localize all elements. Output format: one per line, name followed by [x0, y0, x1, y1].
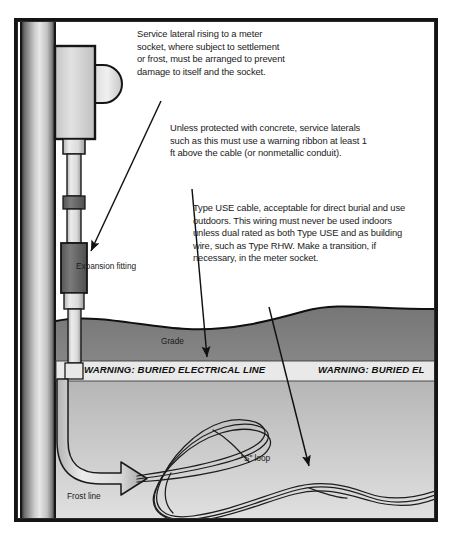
- callout-type-use-cable: Type USE cable, acceptable for direct bu…: [193, 202, 408, 265]
- callout-service-lateral: Service lateral rising to a meter socket…: [137, 28, 289, 78]
- leader-arrow-expansion-fitting: [91, 101, 161, 251]
- service-lateral-diagram: Service lateral rising to a meter socket…: [0, 0, 450, 552]
- conduit-riser-upper: [63, 154, 85, 243]
- label-s-loop: "S" loop: [241, 453, 270, 463]
- warning-ribbon-text-repeat: WARNING: BURIED EL: [318, 364, 425, 375]
- conduit-hub: [63, 139, 85, 154]
- label-grade: Grade: [161, 336, 184, 346]
- label-frost-line: Frost line: [67, 491, 101, 501]
- warning-ribbon-text-primary: WARNING: BURIED ELECTRICAL LINE: [84, 364, 265, 375]
- conduit-collar: [65, 363, 83, 379]
- conduit-coupling: [63, 196, 85, 209]
- label-expansion-fitting: Expansion fitting: [76, 261, 136, 271]
- meter-socket: [55, 46, 122, 139]
- callout-warning-ribbon: Unless protected with concrete, service …: [170, 122, 368, 160]
